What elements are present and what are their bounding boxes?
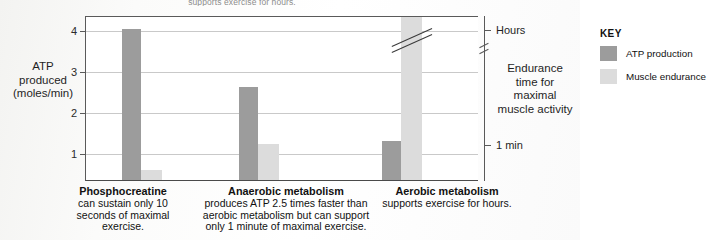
caption-anaerobic: Anaerobic metabolism produces ATP 2.5 ti… bbox=[193, 186, 379, 233]
legend-swatch-muscle-endurance bbox=[600, 69, 617, 84]
bar-endurance-phosphocreatine bbox=[141, 170, 162, 180]
left-axis-title-line1: ATP bbox=[32, 60, 54, 72]
bar-endurance-anaerobic bbox=[258, 144, 279, 180]
caption-body-phosphocreatine: can sustain only 10 seconds of maximal e… bbox=[60, 198, 186, 233]
bar-endurance-aerobic bbox=[401, 17, 422, 180]
tick-mark-1 bbox=[80, 154, 86, 155]
legend-label-atp-production: ATP production bbox=[626, 48, 693, 59]
legend-label-muscle-endurance: Muscle endurance bbox=[626, 71, 706, 82]
legend-title: KEY bbox=[600, 28, 718, 39]
right-axis-break-icon bbox=[479, 42, 491, 56]
figure-energy-systems: supports exercise for hours. ATP produce… bbox=[0, 0, 722, 240]
bar-atp-phosphocreatine bbox=[122, 29, 141, 180]
right-tick-hours bbox=[484, 30, 491, 31]
caption-aerobic: Aerobic metabolism supports exercise for… bbox=[382, 186, 512, 210]
y-tick-label-1: 1 bbox=[71, 148, 77, 160]
caption-row: Phosphocreatine can sustain only 10 seco… bbox=[60, 186, 540, 238]
bar-atp-aerobic bbox=[382, 141, 401, 180]
right-tick-label-1min: 1 min bbox=[496, 139, 523, 151]
bar-atp-anaerobic bbox=[239, 87, 258, 180]
legend: KEY ATP production Muscle endurance bbox=[600, 28, 718, 92]
caption-body-anaerobic: produces ATP 2.5 times faster than aerob… bbox=[193, 198, 379, 233]
caption-phosphocreatine: Phosphocreatine can sustain only 10 seco… bbox=[60, 186, 186, 233]
tick-mark-4 bbox=[80, 31, 86, 32]
plot-area: 4 3 2 1 bbox=[85, 16, 478, 181]
legend-item-muscle-endurance: Muscle endurance bbox=[600, 69, 718, 84]
right-tick-1min bbox=[484, 145, 491, 146]
y-tick-label-4: 4 bbox=[71, 25, 77, 37]
tick-mark-3 bbox=[80, 72, 86, 73]
right-tick-label-hours: Hours bbox=[496, 24, 525, 36]
y-tick-label-3: 3 bbox=[71, 66, 77, 78]
top-clipped-caption: supports exercise for hours. bbox=[132, 0, 352, 6]
right-axis-line bbox=[484, 16, 485, 181]
caption-body-aerobic: supports exercise for hours. bbox=[382, 198, 512, 210]
legend-item-atp-production: ATP production bbox=[600, 46, 718, 61]
y-tick-label-2: 2 bbox=[71, 107, 77, 119]
right-axis-title: Endurancetime formaximalmuscle activity bbox=[492, 62, 578, 116]
left-axis-title: ATP produced(moles/min) bbox=[6, 60, 80, 101]
legend-swatch-atp-production bbox=[600, 46, 617, 61]
tick-mark-2 bbox=[80, 113, 86, 114]
